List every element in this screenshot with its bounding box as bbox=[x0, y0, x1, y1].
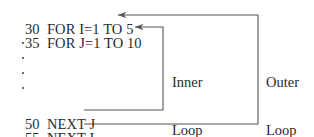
code-line-text: NEXT I bbox=[47, 130, 94, 137]
ellipsis-dot bbox=[22, 57, 24, 59]
ellipsis-dot bbox=[22, 42, 24, 44]
code-line-number: 35 bbox=[25, 36, 47, 50]
outer-loop-label-line1: Outer bbox=[266, 74, 299, 90]
inner-loop-label: Inner Loop bbox=[172, 42, 203, 137]
nested-loop-diagram: 30FOR I=1 TO 5 35FOR J=1 TO 10 50NEXT J … bbox=[0, 0, 314, 137]
code-line-number: 55 bbox=[25, 131, 47, 137]
outer-loop-label: Outer Loop bbox=[266, 42, 299, 137]
ellipsis-dot bbox=[22, 87, 24, 89]
ellipsis-dot bbox=[22, 72, 24, 74]
code-line-55: 55NEXT I bbox=[10, 117, 94, 137]
outer-loop-label-line2: Loop bbox=[266, 122, 299, 137]
inner-loop-label-line1: Inner bbox=[172, 74, 203, 90]
inner-loop-label-line2: Loop bbox=[172, 122, 203, 137]
code-line-text: FOR J=1 TO 10 bbox=[47, 35, 142, 51]
code-line-35: 35FOR J=1 TO 10 bbox=[10, 22, 142, 64]
